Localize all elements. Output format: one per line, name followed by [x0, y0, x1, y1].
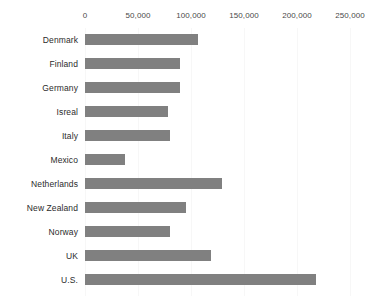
- bar: [85, 34, 198, 45]
- bar: [85, 106, 168, 117]
- chart-row: New Zealand: [0, 196, 389, 220]
- bar: [85, 154, 125, 165]
- chart-rows: DenmarkFinlandGermanyIsrealItalyMexicoNe…: [0, 28, 389, 296]
- bar: [85, 178, 222, 189]
- x-tick-label: 50,000: [125, 10, 150, 21]
- chart-row: Isreal: [0, 100, 389, 124]
- category-label: Mexico: [0, 148, 78, 172]
- x-tick-label: 100,000: [176, 10, 206, 21]
- bar: [85, 202, 186, 213]
- chart-row: Germany: [0, 76, 389, 100]
- chart-row: Netherlands: [0, 172, 389, 196]
- x-tick-label: 0: [83, 10, 88, 21]
- chart-row: Denmark: [0, 28, 389, 52]
- category-label: Italy: [0, 124, 78, 148]
- chart-row: Norway: [0, 220, 389, 244]
- chart-row: Italy: [0, 124, 389, 148]
- x-tick-label: 200,000: [282, 10, 312, 21]
- chart-row: U.S.: [0, 268, 389, 292]
- category-label: New Zealand: [0, 196, 78, 220]
- bar: [85, 130, 170, 141]
- bar: [85, 82, 180, 93]
- category-label: Netherlands: [0, 172, 78, 196]
- chart-row: Mexico: [0, 148, 389, 172]
- category-label: Denmark: [0, 28, 78, 52]
- category-label: Norway: [0, 220, 78, 244]
- category-label: Finland: [0, 52, 78, 76]
- category-label: UK: [0, 244, 78, 268]
- bar: [85, 250, 211, 261]
- chart-row: UK: [0, 244, 389, 268]
- x-tick-label: 150,000: [229, 10, 259, 21]
- x-tick-label: 250,000: [335, 10, 365, 21]
- category-label: Germany: [0, 76, 78, 100]
- chart-row: Finland: [0, 52, 389, 76]
- bar: [85, 58, 180, 69]
- category-label: U.S.: [0, 268, 78, 292]
- x-axis-tick-labels: 050,000100,000150,000200,000250,000: [85, 10, 350, 24]
- bar: [85, 274, 316, 285]
- bar-chart: 050,000100,000150,000200,000250,000 Denm…: [0, 0, 389, 301]
- category-label: Isreal: [0, 100, 78, 124]
- bar: [85, 226, 170, 237]
